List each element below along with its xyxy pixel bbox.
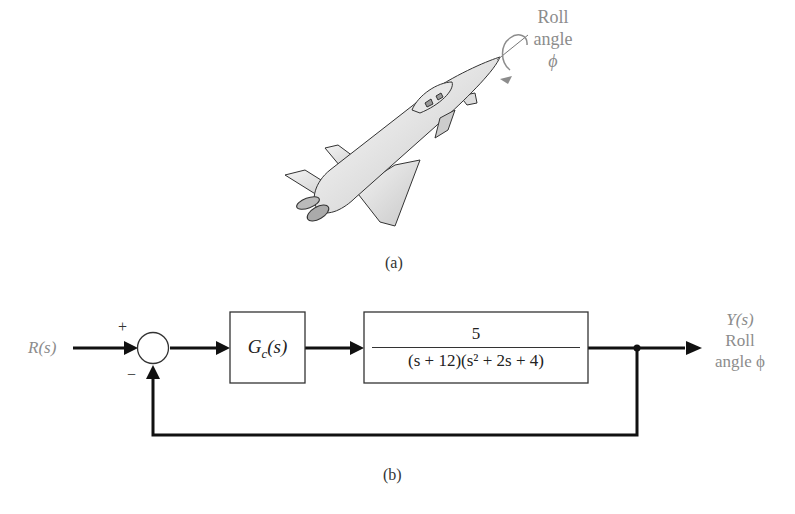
fraction-bar	[372, 347, 580, 348]
plant-input-arrowhead-icon	[350, 341, 364, 355]
roll-label-phi: ϕ	[528, 51, 578, 71]
minus-sign: −	[127, 366, 136, 384]
input-label: R(s)	[28, 338, 56, 358]
roll-label-line1: Roll	[528, 7, 578, 27]
output-label: Y(s) Roll angle ϕ	[700, 310, 780, 372]
output-label-roll: Roll	[700, 331, 780, 351]
summing-junction-icon	[138, 333, 169, 364]
roll-arrowhead-icon	[500, 76, 512, 84]
plant-transfer-function: 5 (s + 12)(s² + 2s + 4)	[364, 312, 588, 383]
controller-label: Gc(s)	[230, 336, 305, 362]
caption-a: (a)	[385, 254, 403, 272]
plus-sign: +	[118, 318, 127, 336]
roll-label-line2: angle	[528, 29, 578, 49]
controller-label-arg: (s)	[267, 336, 287, 357]
caption-b: (b)	[383, 466, 402, 484]
feedback-arrowhead-icon	[146, 365, 160, 379]
aircraft-icon	[285, 57, 500, 226]
plant-numerator: 5	[472, 324, 481, 344]
input-arrowhead-icon	[124, 341, 138, 355]
output-label-angle: angle ϕ	[700, 352, 780, 372]
roll-label: Roll angle ϕ	[528, 7, 578, 71]
gc-input-arrowhead-icon	[216, 341, 230, 355]
plant-denominator: (s + 12)(s² + 2s + 4)	[408, 351, 544, 371]
pickoff-point-icon	[634, 345, 641, 352]
roll-axis-line	[497, 35, 528, 60]
controller-label-main: G	[248, 336, 262, 357]
output-label-ys: Y(s)	[700, 310, 780, 330]
